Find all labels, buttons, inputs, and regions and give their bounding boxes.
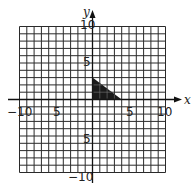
y-tick-label-pos5: 5 bbox=[83, 55, 91, 69]
x-axis-label: x bbox=[184, 93, 191, 107]
y-tick-label-neg5: 5 bbox=[83, 132, 91, 146]
x-tick-label-neg10: −10 bbox=[7, 105, 32, 119]
y-tick-label-neg10: −10 bbox=[68, 170, 93, 183]
x-tick-label-pos10: 10 bbox=[157, 105, 172, 119]
y-axis-arrow-icon bbox=[90, 10, 96, 18]
x-axis-arrow-icon bbox=[174, 97, 182, 103]
x-tick-label-neg5: 5 bbox=[53, 105, 61, 119]
y-tick-label-pos10: 10 bbox=[80, 18, 95, 32]
coordinate-plane: y x −10 5 5 10 10 5 5 −10 bbox=[0, 0, 192, 183]
y-axis-label: y bbox=[82, 5, 90, 19]
x-tick-label-pos5: 5 bbox=[126, 105, 134, 119]
